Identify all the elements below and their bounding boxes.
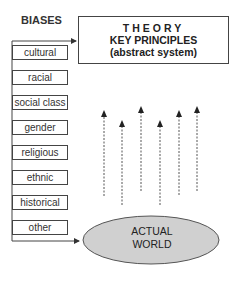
arrowhead-icon: [138, 106, 144, 113]
actual-world-label: ACTUAL WORLD: [82, 225, 222, 251]
world-line-2: WORLD: [82, 238, 222, 251]
arrowhead-icon: [157, 120, 163, 127]
bias-historical: historical: [12, 195, 68, 210]
arrowhead-icon: [119, 120, 125, 127]
bias-social-class: social class: [12, 95, 68, 110]
arrowhead-group: [101, 106, 200, 127]
bias-racial: racial: [12, 70, 68, 85]
bias-other: other: [12, 220, 68, 235]
bias-gender: gender: [12, 120, 68, 135]
theory-key-principles: KEY PRINCIPLES: [79, 34, 228, 46]
theory-title: THEORY: [79, 22, 228, 34]
dashed-arrows: [104, 112, 197, 205]
theory-box: THEORY KEY PRINCIPLES (abstract system): [78, 16, 229, 64]
world-line-1: ACTUAL: [82, 225, 222, 238]
arrowhead-icon: [194, 106, 200, 113]
bias-cultural: cultural: [12, 45, 68, 60]
bias-religious: religious: [12, 145, 68, 160]
arrowhead-icon: [176, 110, 182, 117]
arrowhead-icon: [101, 110, 107, 117]
theory-abstract-system: (abstract system): [79, 46, 228, 58]
biases-heading: BIASES: [21, 14, 62, 26]
bias-ethnic: ethnic: [12, 170, 68, 185]
